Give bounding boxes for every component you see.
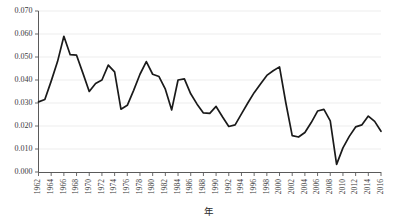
y-tick-label: 0.070 [15,6,33,15]
x-tick-label: 2006 [312,179,321,194]
y-tick-label: 0.020 [15,121,33,130]
line-chart-figure: 0.0000.0100.0200.0300.0400.0500.0600.070… [0,0,393,224]
x-tick-label: 1994 [236,179,245,194]
y-tick-label: 0.010 [15,144,33,153]
y-tick-labels: 0.0000.0100.0200.0300.0400.0500.0600.070 [15,6,33,176]
x-tick-label: 1998 [262,179,271,194]
x-tick-label: 1990 [211,179,220,194]
x-tick-label: 1970 [84,179,93,194]
x-tick-labels: 1962196419661968197019721974197619781980… [33,179,385,194]
chart-canvas: 0.0000.0100.0200.0300.0400.0500.0600.070… [0,0,393,224]
x-tick-label: 1986 [185,179,194,194]
x-tick-label: 2012 [350,179,359,194]
y-tick-label: 0.000 [15,167,33,176]
y-tick-label: 0.040 [15,75,33,84]
data-series-line [39,36,382,164]
y-axis-group: 0.0000.0100.0200.0300.0400.0500.0600.070 [15,6,39,176]
x-tick-label: 2014 [363,179,372,194]
x-tick-label: 1964 [46,179,55,194]
x-tick-label: 1980 [147,179,156,194]
x-tick-label: 2000 [274,179,283,194]
y-tick-marks [35,11,39,172]
y-tick-label: 0.050 [15,52,33,61]
x-tick-label: 1962 [33,179,42,194]
x-tick-label: 1974 [109,179,118,194]
x-tick-label: 2016 [376,179,385,194]
x-tick-label: 1984 [173,179,182,194]
y-tick-label: 0.030 [15,98,33,107]
x-tick-label: 2010 [338,179,347,194]
x-tick-label: 1968 [71,179,80,194]
x-tick-label: 1976 [122,179,131,194]
x-tick-label: 1978 [135,179,144,194]
x-tick-label: 2002 [287,179,296,194]
gridlines-group [39,11,382,149]
x-axis-group: 1962196419661968197019721974197619781980… [33,172,385,194]
series-group [39,36,382,164]
x-tick-label: 1966 [59,179,68,194]
x-axis-title: 年 [204,206,214,217]
x-tick-label: 1996 [249,179,258,194]
x-tick-label: 1992 [224,179,233,194]
y-tick-label: 0.060 [15,29,33,38]
x-tick-label: 1982 [160,179,169,194]
x-tick-label: 2008 [325,179,334,194]
x-tick-label: 1972 [97,179,106,194]
x-tick-label: 2004 [300,179,309,194]
x-tick-label: 1988 [198,179,207,194]
